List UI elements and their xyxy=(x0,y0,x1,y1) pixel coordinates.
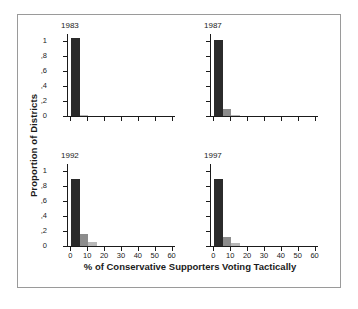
plot-area-1987 xyxy=(190,34,318,116)
plot-area-1992: 0,2,4,6,810102030405060 xyxy=(47,164,175,246)
figure-canvas: Proportion of Districts % of Conservativ… xyxy=(0,0,358,309)
bar xyxy=(223,237,231,246)
bar-series-1997 xyxy=(211,164,319,246)
x-tick xyxy=(121,117,122,121)
y-tick xyxy=(206,41,210,42)
y-tick-label: ,8 xyxy=(23,52,47,60)
bar-series-1987 xyxy=(211,34,319,116)
panel-title-1992: 1992 xyxy=(61,151,79,160)
x-tick xyxy=(264,117,265,121)
y-tick xyxy=(206,216,210,217)
bar xyxy=(214,40,222,116)
bar xyxy=(80,115,88,116)
x-tick xyxy=(70,117,71,121)
bar xyxy=(231,243,239,246)
y-tick-label: 0 xyxy=(23,112,47,120)
y-tick xyxy=(206,71,210,72)
bar xyxy=(80,234,88,246)
x-tick-label: 20 xyxy=(95,252,113,260)
x-tick xyxy=(87,117,88,121)
y-tick xyxy=(206,231,210,232)
x-tick-label: 10 xyxy=(78,252,96,260)
y-tick xyxy=(206,101,210,102)
plot-area-1997: 0102030405060 xyxy=(190,164,318,246)
y-tick xyxy=(206,201,210,202)
y-tick-label: 1 xyxy=(23,167,47,175)
y-tick xyxy=(63,71,67,72)
bar-series-1983 xyxy=(68,34,176,116)
y-tick xyxy=(206,186,210,187)
x-tick-label: 50 xyxy=(146,252,164,260)
x-tick xyxy=(298,117,299,121)
x-tick-label: 40 xyxy=(129,252,147,260)
x-tick xyxy=(315,117,316,121)
x-tick-label: 0 xyxy=(204,252,222,260)
x-tick-label: 60 xyxy=(163,252,181,260)
y-tick xyxy=(63,86,67,87)
y-tick xyxy=(206,171,210,172)
x-tick xyxy=(138,117,139,121)
y-tick xyxy=(63,41,67,42)
x-tick-label: 40 xyxy=(272,252,290,260)
y-tick-label: ,8 xyxy=(23,182,47,190)
x-tick xyxy=(104,117,105,121)
x-tick-label: 30 xyxy=(112,252,130,260)
x-tick xyxy=(281,117,282,121)
y-tick-label: ,4 xyxy=(23,212,47,220)
y-tick-label: ,4 xyxy=(23,82,47,90)
panel-1983: 19830,2,4,6,81 xyxy=(47,22,175,122)
y-tick xyxy=(63,101,67,102)
y-tick xyxy=(63,116,67,117)
plot-area-1983: 0,2,4,6,81 xyxy=(47,34,175,116)
panel-1992: 19920,2,4,6,810102030405060 xyxy=(47,152,175,252)
y-tick xyxy=(63,246,67,247)
panel-1997: 19970102030405060 xyxy=(190,152,318,252)
bar xyxy=(223,109,231,116)
bar-series-1992 xyxy=(68,164,176,246)
x-tick xyxy=(172,117,173,121)
y-tick-label: 1 xyxy=(23,37,47,45)
x-tick-label: 60 xyxy=(306,252,324,260)
y-tick-label: ,6 xyxy=(23,67,47,75)
y-tick-label: ,6 xyxy=(23,197,47,205)
y-tick-label: 0 xyxy=(23,242,47,250)
y-tick xyxy=(206,56,210,57)
bar xyxy=(71,38,79,116)
y-tick xyxy=(63,216,67,217)
x-tick xyxy=(247,117,248,121)
panel-title-1997: 1997 xyxy=(204,151,222,160)
bar xyxy=(71,179,79,246)
x-tick-label: 30 xyxy=(255,252,273,260)
bar xyxy=(214,179,222,246)
x-axis-title: % of Conservative Supporters Voting Tact… xyxy=(40,261,340,272)
panel-title-1987: 1987 xyxy=(204,21,222,30)
x-tick xyxy=(230,117,231,121)
y-tick xyxy=(63,231,67,232)
y-tick xyxy=(206,246,210,247)
panel-title-1983: 1983 xyxy=(61,21,79,30)
bar xyxy=(231,115,239,116)
y-tick xyxy=(206,116,210,117)
x-tick xyxy=(155,117,156,121)
y-tick xyxy=(63,56,67,57)
x-tick-label: 10 xyxy=(221,252,239,260)
y-tick xyxy=(63,171,67,172)
panel-1987: 1987 xyxy=(190,22,318,122)
bar xyxy=(88,242,96,246)
x-tick-label: 20 xyxy=(238,252,256,260)
y-tick-label: ,2 xyxy=(23,227,47,235)
x-tick-label: 0 xyxy=(61,252,79,260)
x-tick xyxy=(213,117,214,121)
y-tick xyxy=(63,186,67,187)
y-tick xyxy=(206,86,210,87)
x-tick-label: 50 xyxy=(289,252,307,260)
y-tick-label: ,2 xyxy=(23,97,47,105)
y-tick xyxy=(63,201,67,202)
